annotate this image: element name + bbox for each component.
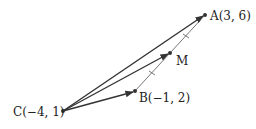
vector-cb	[63, 92, 133, 111]
label-a: A(3, 6)	[210, 10, 251, 22]
label-b: B(−1, 2)	[139, 92, 190, 104]
label-c: C(−4, 1)	[13, 106, 65, 118]
label-m: M	[176, 55, 188, 67]
point-m	[168, 51, 172, 55]
point-b	[133, 89, 137, 93]
point-a	[203, 13, 207, 17]
